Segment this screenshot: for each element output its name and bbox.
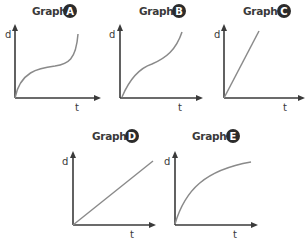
graph-d-x-label: t xyxy=(130,229,134,240)
graph-b-y-label: d xyxy=(109,29,115,40)
graph-e-x-label: t xyxy=(233,229,237,240)
graph-d-y-arrow-icon xyxy=(70,151,76,158)
graph-c-y-arrow-icon xyxy=(221,24,227,31)
graph-d: Graph D d t xyxy=(62,129,156,240)
graph-e-title: Graph xyxy=(192,130,226,142)
graphs-diagram: Graph A d t Graph B d t Graph C d t xyxy=(0,0,305,240)
graph-c: Graph C d t xyxy=(214,4,305,113)
graph-e-y-arrow-icon xyxy=(172,151,178,158)
graph-d-y-label: d xyxy=(62,156,68,167)
graph-c-x-label: t xyxy=(283,102,287,113)
graph-a-title: Graph xyxy=(32,5,66,17)
graph-d-badge: D xyxy=(128,131,136,142)
graph-e-y-label: d xyxy=(164,156,170,167)
graph-e-badge: E xyxy=(230,131,237,142)
graph-e-curve xyxy=(175,162,251,224)
graph-b-title: Graph xyxy=(139,5,173,17)
graph-e-x-arrow-icon xyxy=(251,222,258,228)
graph-a-y-label: d xyxy=(5,29,11,40)
graph-c-badge: C xyxy=(280,6,287,17)
graph-a-x-label: t xyxy=(75,102,79,113)
graph-d-x-arrow-icon xyxy=(149,222,156,228)
graph-a-y-arrow-icon xyxy=(12,24,18,31)
graph-e: Graph E d t xyxy=(164,129,258,240)
graph-c-x-arrow-icon xyxy=(298,95,305,101)
graph-b: Graph B d t xyxy=(109,4,203,113)
graph-a-curve xyxy=(15,34,78,98)
graph-c-line xyxy=(224,31,259,98)
graph-d-title: Graph xyxy=(92,130,126,142)
graph-a: Graph A d t xyxy=(5,4,101,113)
graph-b-curve xyxy=(122,32,182,97)
graph-d-line xyxy=(73,161,153,225)
graph-b-x-arrow-icon xyxy=(196,95,203,101)
graph-c-title: Graph xyxy=(243,5,277,17)
graph-a-x-arrow-icon xyxy=(94,95,101,101)
graph-b-x-label: t xyxy=(178,102,182,113)
graph-b-y-arrow-icon xyxy=(117,24,123,31)
graph-a-badge: A xyxy=(66,6,74,17)
graph-c-y-label: d xyxy=(214,29,220,40)
graph-b-badge: B xyxy=(175,6,183,17)
